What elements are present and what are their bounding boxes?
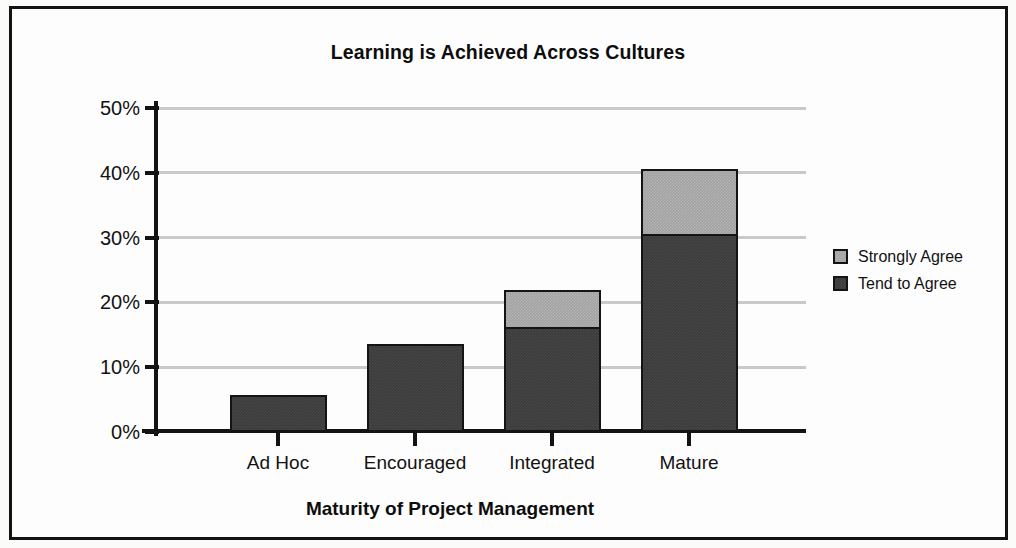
y-axis-tick	[145, 236, 159, 240]
legend-swatch	[833, 249, 848, 264]
legend-item[interactable]: Tend to Agree	[833, 270, 963, 297]
legend-item[interactable]: Strongly Agree	[833, 243, 963, 270]
x-axis-tick	[276, 433, 280, 446]
y-axis-tick	[145, 365, 159, 369]
plot-area: 0%10%20%30%40%50%	[158, 108, 806, 432]
y-axis-tick	[145, 300, 159, 304]
x-axis-tick	[550, 433, 554, 446]
x-axis-tick	[687, 433, 691, 446]
gridline	[158, 107, 806, 110]
x-axis-category-label: Mature	[599, 452, 779, 474]
y-axis-tick-label: 50%	[100, 98, 140, 118]
chart-page: Learning is Achieved Across Cultures 0%1…	[0, 0, 1016, 548]
chart-legend: Strongly AgreeTend to Agree	[833, 243, 963, 297]
bar-segment[interactable]	[504, 327, 601, 432]
y-axis-tick	[145, 171, 159, 175]
legend-label: Tend to Agree	[858, 275, 957, 293]
y-axis-tick-label: 0%	[111, 422, 140, 442]
bar-segment[interactable]	[367, 344, 464, 432]
chart-title: Learning is Achieved Across Cultures	[0, 41, 1016, 64]
legend-label: Strongly Agree	[858, 248, 963, 266]
y-axis-tick-label: 10%	[100, 357, 140, 377]
legend-swatch	[833, 276, 848, 291]
y-axis-tick-label: 20%	[100, 292, 140, 312]
y-axis-tick	[145, 430, 159, 434]
x-axis-title: Maturity of Project Management	[100, 498, 800, 520]
bar-segment[interactable]	[641, 169, 738, 236]
bar-segment[interactable]	[641, 234, 738, 432]
y-axis-tick-label: 30%	[100, 228, 140, 248]
x-axis-tick	[413, 433, 417, 446]
bar-segment[interactable]	[230, 395, 327, 432]
y-axis-tick	[145, 106, 159, 110]
bar-segment[interactable]	[504, 290, 601, 329]
y-axis-tick-label: 40%	[100, 163, 140, 183]
